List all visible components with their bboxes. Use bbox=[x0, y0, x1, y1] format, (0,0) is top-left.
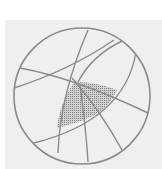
great-circle-arcs bbox=[14, 30, 148, 162]
great-circle-arc bbox=[14, 40, 114, 88]
great-circle-arc bbox=[78, 40, 124, 82]
stereonet-diagram bbox=[0, 0, 162, 169]
